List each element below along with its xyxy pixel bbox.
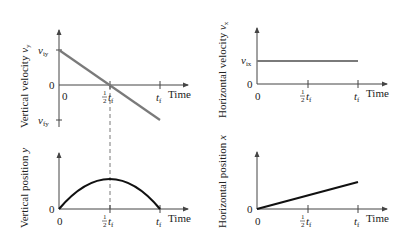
y-axis-label-vertical-position: Vertical position y (18, 148, 30, 228)
svg-text:2: 2 (103, 221, 107, 229)
svg-text:2: 2 (103, 97, 107, 105)
chart-vertical-velocity: Vertical velocity vy viy 0 vfy 0 1 2 tf … (18, 30, 191, 128)
svg-text:1: 1 (301, 213, 305, 221)
tick-zero-x: 0 (57, 215, 63, 227)
svg-text:2: 2 (301, 221, 305, 229)
kinematics-figure: Vertical velocity vy viy 0 vfy 0 1 2 tf … (0, 0, 414, 245)
tick-half-tf: 1 2 tf (102, 213, 114, 229)
svg-text:2: 2 (301, 96, 305, 104)
svg-text:tf: tf (306, 215, 312, 229)
x-axis-label-time: Time (366, 87, 389, 99)
tick-zero-x: 0 (255, 215, 261, 227)
tick-v-iy: viy (38, 44, 49, 58)
x-axis-label-time: Time (168, 212, 191, 224)
tick-zero-x: 0 (62, 90, 68, 102)
svg-text:1: 1 (103, 213, 107, 221)
chart-horizontal-position: Horizontal position x 0 0 1 2 tf tf Time (216, 135, 389, 229)
svg-text:tf: tf (108, 91, 114, 105)
x-line (257, 182, 358, 209)
svg-text:tf: tf (306, 90, 312, 104)
tick-half-tf: 1 2 tf (102, 89, 114, 105)
svg-text:tf: tf (108, 215, 114, 229)
tick-tf: tf (354, 90, 360, 104)
chart-vertical-position: Vertical position y 0 0 1 2 tf tf Time (18, 148, 191, 229)
tick-tf: tf (354, 215, 360, 229)
tick-v-fy: vfy (38, 114, 49, 128)
tick-zero-y: 0 (49, 79, 55, 91)
x-axis-label-time: Time (366, 212, 389, 224)
y-axis-label-horizontal-position: Horizontal position x (216, 135, 228, 228)
tick-half-tf: 1 2 tf (300, 213, 312, 229)
tick-v-ix: vix (241, 54, 252, 68)
tick-half-tf: 1 2 tf (300, 88, 312, 104)
chart-horizontal-velocity: Horizontal velocity vx vix 0 0 1 2 tf tf… (216, 21, 389, 118)
y-parabola (59, 179, 160, 209)
svg-text:1: 1 (301, 88, 305, 96)
tick-zero-y: 0 (247, 203, 253, 215)
tick-zero-x: 0 (255, 90, 261, 102)
tick-zero-y: 0 (49, 203, 55, 215)
tick-tf: tf (156, 215, 162, 229)
tick-zero-y: 0 (247, 78, 253, 90)
y-axis-label-vertical-velocity: Vertical velocity vy (18, 44, 32, 128)
x-axis-label-time: Time (168, 88, 191, 100)
y-axis-label-horizontal-velocity: Horizontal velocity vx (216, 21, 230, 118)
svg-text:1: 1 (103, 89, 107, 97)
tick-tf: tf (156, 91, 162, 105)
